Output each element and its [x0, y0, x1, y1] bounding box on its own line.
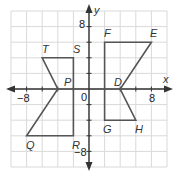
x-axis-right-arrow-icon — [164, 86, 173, 93]
x-axis-label: x — [162, 73, 169, 85]
x-tick-label-8: 8 — [149, 92, 155, 104]
vertex-label-G: G — [103, 123, 112, 135]
vertex-label-F: F — [104, 27, 112, 39]
vertex-label-D: D — [114, 76, 122, 88]
x-tick-label-neg8: −8 — [17, 92, 30, 104]
coordinate-plane: y x 0 −8 8 8 −8 T S P Q R F E D G H — [0, 0, 179, 179]
vertex-label-E: E — [150, 27, 158, 39]
y-axis-up-arrow-icon — [86, 4, 93, 13]
y-tick-label-8: 8 — [79, 18, 85, 30]
y-axis — [86, 4, 93, 171]
figure-TSRQP — [27, 58, 74, 136]
origin-label: 0 — [81, 91, 87, 103]
vertex-label-H: H — [135, 123, 143, 135]
vertex-label-P: P — [64, 76, 72, 88]
vertex-label-S: S — [73, 43, 81, 55]
y-axis-label: y — [93, 4, 101, 16]
vertex-label-Q: Q — [26, 139, 35, 151]
vertex-label-T: T — [42, 43, 50, 55]
vertex-label-R: R — [72, 139, 80, 151]
figure-FEDHG — [105, 42, 152, 120]
